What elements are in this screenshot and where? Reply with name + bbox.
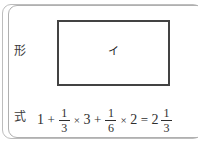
- shape-rectangle-label: イ: [108, 46, 119, 58]
- math-expression: 1 + 1 3 × 3 + 1 6 × 2 = 2 1: [36, 98, 173, 142]
- fraction-denominator: 6: [108, 121, 114, 134]
- fraction-denominator: 3: [61, 121, 67, 134]
- fraction-numerator: 1: [163, 107, 169, 120]
- fraction-one-sixth: 1 6: [104, 107, 118, 134]
- expression-row-label: 式: [14, 110, 26, 124]
- fraction-denominator: 3: [163, 121, 169, 134]
- shape-row: 形 イ: [0, 0, 198, 95]
- operator-plus-1: +: [45, 112, 57, 128]
- operator-times-2: ×: [118, 114, 129, 126]
- operand-2: 3: [83, 112, 92, 128]
- result-mixed-number: 2 1 3: [150, 107, 173, 134]
- shape-row-label: 形: [14, 44, 26, 58]
- operand-3: 2: [129, 112, 138, 128]
- operator-plus-2: +: [92, 112, 104, 128]
- fraction-numerator: 1: [108, 107, 114, 120]
- fraction-numerator: 1: [61, 107, 67, 120]
- shape-rectangle: イ: [57, 20, 170, 86]
- result-fraction: 1 3: [159, 107, 173, 134]
- result-whole-part: 2: [151, 112, 159, 128]
- operator-times-1: ×: [71, 114, 82, 126]
- operand-1: 1: [36, 112, 45, 128]
- fraction-one-third: 1 3: [57, 107, 71, 134]
- screenshot-root: 形 イ 式 1 + 1 3 × 3 + 1 6 × 2 =: [0, 0, 198, 146]
- operator-equals: =: [138, 112, 150, 128]
- expression-row: 式 1 + 1 3 × 3 + 1 6 × 2 = 2: [0, 96, 198, 146]
